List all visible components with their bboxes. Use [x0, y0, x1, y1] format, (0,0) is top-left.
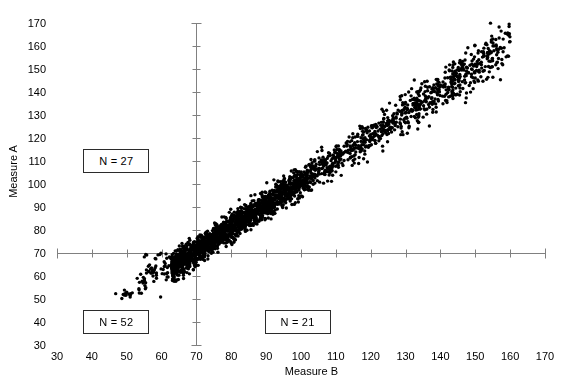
y-axis-tick-label: 80: [20, 225, 46, 236]
x-axis-tick-label: 120: [354, 351, 388, 362]
x-axis-title: Measure B: [271, 366, 351, 377]
x-axis-tick-label: 110: [319, 351, 353, 362]
quadrant-count-box-upper-left: N = 27: [83, 149, 149, 173]
y-axis-tick-label: 140: [20, 87, 46, 98]
scatter-plot-figure: 30405060708090100110120130140150160170 3…: [0, 0, 569, 381]
x-axis-tick-label: 90: [249, 351, 283, 362]
x-axis-tick-label: 170: [528, 351, 562, 362]
y-axis-tick-label: 90: [20, 202, 46, 213]
y-axis-tick-label: 50: [20, 294, 46, 305]
y-axis-tick-label: 100: [20, 179, 46, 190]
x-axis-tick-label: 40: [75, 351, 109, 362]
y-axis-tick-label: 160: [20, 41, 46, 52]
y-axis-tick-label: 110: [20, 156, 46, 167]
quadrant-count-box-lower-right: N = 21: [265, 310, 331, 334]
y-axis-tick-label: 130: [20, 110, 46, 121]
x-axis-tick-label: 60: [145, 351, 179, 362]
x-axis-tick-label: 100: [284, 351, 318, 362]
y-axis-tick-label: 150: [20, 64, 46, 75]
x-axis-tick-label: 140: [423, 351, 457, 362]
y-axis-tick-label: 40: [20, 317, 46, 328]
x-axis-tick-label: 130: [389, 351, 423, 362]
quadrant-count-box-lower-left: N = 52: [83, 310, 149, 334]
y-axis-tick-label: 120: [20, 133, 46, 144]
x-axis-tick-label: 30: [40, 351, 74, 362]
x-axis-tick-label: 150: [458, 351, 492, 362]
y-axis-tick-label: 30: [20, 340, 46, 351]
y-axis-title: Measure A: [8, 136, 19, 206]
x-axis-tick-label: 70: [179, 351, 213, 362]
y-axis-tick-label: 170: [20, 18, 46, 29]
y-axis-tick-label: 60: [20, 271, 46, 282]
y-axis-tick-label: 70: [20, 248, 46, 259]
x-axis-tick-label: 50: [110, 351, 144, 362]
x-axis-tick-label: 160: [493, 351, 527, 362]
x-axis-tick-label: 80: [214, 351, 248, 362]
